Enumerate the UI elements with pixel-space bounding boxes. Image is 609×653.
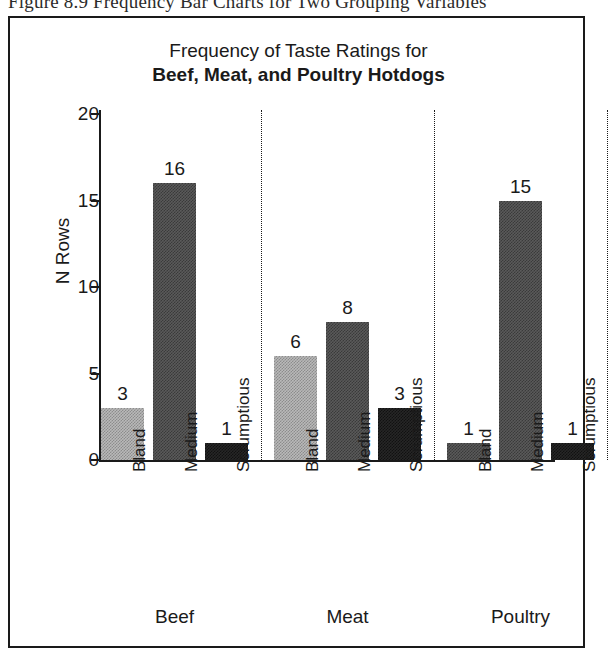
bar-value-beef-medium: 16 [153,159,196,178]
x-category-label-meat-bland: Bland [304,429,321,472]
figure-caption-text: Figure 8.9 Frequency Bar Charts for Two … [8,0,487,13]
y-tick-label-0: 0 [59,450,99,469]
x-category-label-poultry-medium: Medium [529,412,546,472]
bar-value-meat-bland: 6 [274,332,317,351]
x-category-label-beef-bland: Bland [131,429,148,472]
bar-value-beef-bland: 3 [101,384,144,403]
x-category-label-poultry-scrumptious: Scrumptious [581,378,598,472]
bar-value-meat-medium: 8 [326,298,369,317]
group-label-beef: Beef [101,606,248,628]
y-tick-label-10: 10 [59,277,99,296]
x-category-label-meat-medium: Medium [356,412,373,472]
group-label-meat: Meat [274,606,421,628]
x-category-label-poultry-bland: Bland [477,429,494,472]
x-category-label-beef-medium: Medium [183,412,200,472]
x-category-label-beef-scrumptious: Scrumptious [235,378,252,472]
figure-caption: Figure 8.9 Frequency Bar Charts for Two … [0,0,600,13]
group-separator-1 [261,110,263,460]
y-tick-label-15: 15 [59,191,99,210]
y-tick-label-20: 20 [59,104,99,123]
group-label-poultry: Poultry [447,606,594,628]
group-separator-2 [434,110,436,460]
bar-value-poultry-medium: 15 [499,177,542,196]
x-category-label-meat-scrumptious: Scrumptious [408,378,425,472]
figure-frame: Frequency of Taste Ratings for Beef, Mea… [8,16,585,648]
y-tick-label-5: 5 [59,364,99,383]
y-axis-ticks: 05101520 [10,18,99,478]
